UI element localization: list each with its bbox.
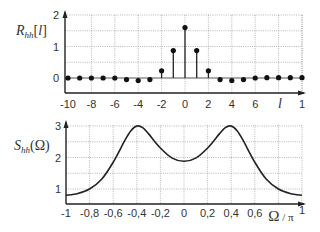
power-spectrum-line-plot: -1-0,8-0,6-0,4-0,200,20,40,61Ω / π123Shh…	[14, 120, 306, 224]
data-point	[159, 68, 164, 73]
y-tick-label: 2	[53, 9, 59, 21]
y-tick-label: 1	[53, 41, 59, 53]
x-tick-label: 0,6	[247, 207, 262, 219]
y-axis-arrow-icon	[63, 10, 68, 18]
y-axis-label: Shh(Ω)	[14, 138, 50, 155]
x-tick-label: 0,4	[224, 207, 239, 219]
x-tick-label: -8	[87, 98, 97, 110]
x-tick-label: -1	[61, 207, 71, 219]
data-point	[112, 75, 117, 80]
x-tick-label: 1	[299, 98, 305, 110]
data-point	[276, 75, 281, 80]
x-tick-label: 0,2	[200, 207, 215, 219]
x-tick-label: 2	[205, 98, 211, 110]
y-tick-label: 2	[55, 152, 61, 164]
x-axis-label: Ω / π	[268, 208, 294, 224]
x-tick-label: -4	[133, 98, 143, 110]
x-tick-label: -2	[157, 98, 167, 110]
data-point	[65, 75, 70, 80]
data-point	[171, 48, 176, 53]
y-tick-label: 0	[53, 72, 59, 84]
data-point	[299, 75, 304, 80]
x-tick-label: -0,8	[80, 207, 99, 219]
y-axis-arrow-icon	[64, 120, 69, 128]
x-tick-label: 1	[299, 204, 305, 216]
data-point	[182, 25, 187, 30]
x-tick-label: -0,2	[151, 207, 170, 219]
data-point	[101, 75, 106, 80]
y-axis-label: Rhh[l]	[15, 23, 47, 40]
x-tick-label: 6	[252, 98, 258, 110]
y-tick-label: 1	[55, 183, 61, 195]
x-tick-label: -0,4	[127, 207, 146, 219]
data-point	[124, 77, 129, 82]
data-point	[206, 68, 211, 73]
data-point	[264, 75, 269, 80]
x-tick-label: 0	[182, 98, 188, 110]
x-tick-label: 4	[229, 98, 235, 110]
data-point	[241, 77, 246, 82]
data-point	[194, 48, 199, 53]
figure: -10-8-6-4-202461l012Rhh[l] -1-0,8-0,6-0,…	[0, 0, 320, 232]
x-tick-label: 0	[181, 207, 187, 219]
data-point	[147, 77, 152, 82]
data-point	[136, 78, 141, 83]
data-point	[218, 77, 223, 82]
x-tick-label: -10	[60, 98, 76, 110]
data-point	[89, 75, 94, 80]
data-point	[229, 78, 234, 83]
x-tick-label: -6	[110, 98, 120, 110]
autocorrelation-stem-plot: -10-8-6-4-202461l012Rhh[l]	[15, 9, 306, 111]
x-tick-label: -0,6	[104, 207, 123, 219]
x-axis-arrow-icon	[298, 91, 306, 96]
x-axis-label: l	[278, 96, 282, 111]
y-tick-label: 3	[55, 120, 61, 132]
data-point	[288, 75, 293, 80]
data-point	[77, 75, 82, 80]
data-point	[253, 75, 258, 80]
